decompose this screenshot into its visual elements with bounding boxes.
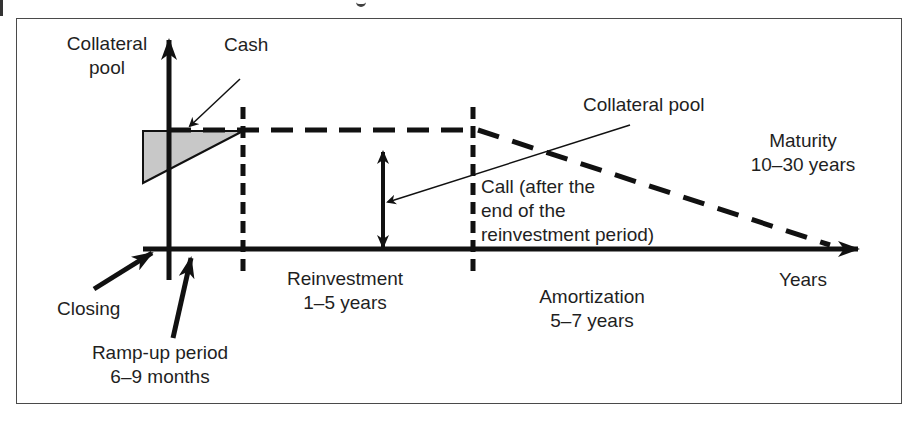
call-label: Call (after the end of the reinvestment … xyxy=(481,175,654,247)
collateral-pool-label: Collateral pool xyxy=(583,93,704,117)
closing-label: Closing xyxy=(57,297,120,321)
ramp-up-arrow xyxy=(173,258,191,338)
x-axis-label: Years xyxy=(779,268,827,292)
amortization-label: Amortization 5–7 years xyxy=(527,285,657,333)
y-axis-label: Collateral pool xyxy=(58,32,156,80)
cash-pointer xyxy=(190,79,240,126)
reinvestment-label: Reinvestment 1–5 years xyxy=(275,267,415,315)
cash-label: Cash xyxy=(224,33,268,57)
maturity-label: Maturity 10–30 years xyxy=(736,129,870,177)
ramp-up-label: Ramp-up period 6–9 months xyxy=(70,341,250,389)
closing-arrow xyxy=(94,253,152,289)
cash-triangle xyxy=(143,131,243,183)
